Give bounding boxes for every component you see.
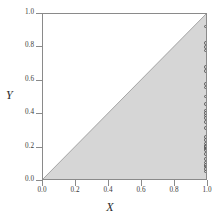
plot-panel	[42, 13, 207, 180]
x-tick-label: 1.0	[195, 187, 219, 194]
data-point	[204, 102, 207, 106]
y-tick-label: 0.6	[25, 76, 34, 83]
data-point	[204, 41, 207, 45]
y-tick-mark	[36, 147, 42, 148]
y-tick-mark	[36, 13, 42, 14]
scatter-plot-figure: 0.00.20.40.60.81.0 0.00.20.40.60.81.0 Y …	[0, 0, 220, 220]
data-point	[204, 116, 207, 120]
data-point	[204, 49, 207, 53]
data-point	[204, 25, 207, 29]
y-tick-label: 0.2	[25, 143, 34, 150]
y-tick-mark	[36, 46, 42, 47]
data-point	[204, 148, 207, 152]
x-tick-label: 0.2	[63, 187, 87, 194]
x-axis-label: X	[0, 200, 220, 215]
y-tick-mark	[36, 80, 42, 81]
y-tick-mark	[36, 113, 42, 114]
data-point	[204, 126, 207, 130]
data-point-layer	[43, 14, 206, 179]
data-point	[204, 170, 207, 174]
data-point	[204, 86, 207, 90]
x-tick-label: 0.8	[162, 187, 186, 194]
y-tick-label: 1.0	[25, 9, 34, 16]
y-tick-label: 0.8	[25, 42, 34, 49]
data-point	[204, 95, 207, 99]
data-point	[204, 120, 207, 124]
data-point	[204, 69, 207, 73]
y-tick-label: 0.0	[25, 176, 34, 183]
x-tick-label: 0.6	[129, 187, 153, 194]
x-tick-label: 0.0	[30, 187, 54, 194]
y-tick-label: 0.4	[25, 109, 34, 116]
data-point	[204, 65, 207, 69]
x-tick-label: 0.4	[96, 187, 120, 194]
data-point	[204, 152, 207, 156]
y-axis-label: Y	[6, 89, 13, 101]
